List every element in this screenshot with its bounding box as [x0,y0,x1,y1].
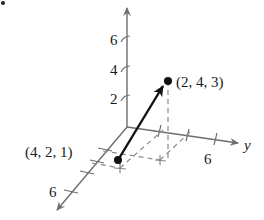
x-tick-6: 6 [49,184,57,200]
projection-lines [92,81,190,168]
terminal-point-dot [164,77,172,85]
z-tick-4: 4 [110,62,118,78]
y-axis-label: y [242,137,251,153]
vector-diagram: 2 4 6 y 6 6 (2, 4, 3) (4, 2, 1) [0,0,264,220]
z-tick-6: 6 [110,32,118,48]
terminal-point-label: (2, 4, 3) [176,74,224,91]
z-tick-2: 2 [110,91,118,107]
y-axis [127,127,238,143]
initial-point-dot [114,156,122,164]
z-axis-ticks [121,36,130,101]
y-tick-6: 6 [204,151,212,167]
figure-marker-dot [1,1,5,5]
projection-crosses [114,155,166,173]
initial-point-label: (4, 2, 1) [25,144,73,161]
